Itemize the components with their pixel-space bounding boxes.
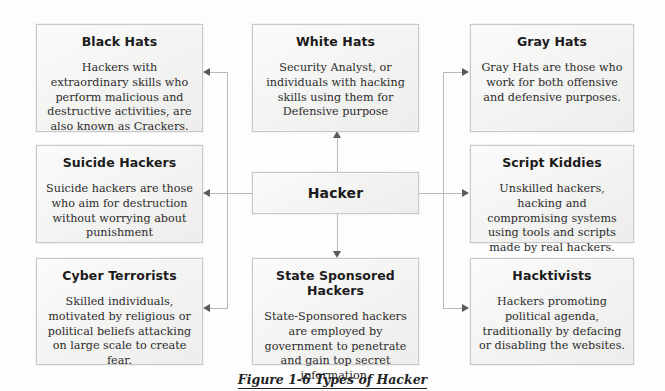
connector-right-trunk [443, 72, 444, 308]
node-suicide-hackers[interactable]: Suicide Hackers Suicide hackers are thos… [36, 145, 203, 243]
node-gray-hats[interactable]: Gray Hats Gray Hats are those who work f… [470, 24, 634, 132]
node-description: Gray Hats are those who work for both of… [478, 61, 626, 105]
figure-caption: Figure 1-6 Types of Hacker [0, 372, 665, 387]
node-title: Suicide Hackers [63, 155, 177, 170]
node-title: Gray Hats [517, 34, 587, 49]
connector-center-to-right-trunk [418, 193, 444, 194]
connector-to-script-kiddies [443, 193, 462, 194]
node-description: Security Analyst, or individuals with ha… [260, 61, 411, 120]
node-white-hats[interactable]: White Hats Security Analyst, or individu… [252, 24, 419, 132]
connector-left-trunk [227, 72, 228, 308]
node-title: Hacker [308, 185, 363, 202]
figure-diagram: Black Hats Hackers with extraordinary sk… [0, 0, 665, 391]
node-description: Hackers promoting political agenda, trad… [478, 295, 626, 354]
connector-center-to-left-trunk [227, 193, 253, 194]
connector-to-hacktivists [443, 308, 462, 309]
node-state-sponsored-hackers[interactable]: State Sponsored Hackers State-Sponsored … [252, 258, 419, 365]
node-title: Hacktivists [512, 268, 591, 283]
node-black-hats[interactable]: Black Hats Hackers with extraordinary sk… [36, 24, 203, 132]
arrowhead-white-hats [333, 131, 341, 138]
node-cyber-terrorists[interactable]: Cyber Terrorists Skilled individuals, mo… [36, 258, 203, 365]
node-description: Unskilled hackers, hacking and compromis… [478, 182, 626, 256]
node-hacker-root[interactable]: Hacker [252, 172, 419, 214]
arrowhead-black-hats [203, 68, 210, 76]
node-title: White Hats [296, 34, 375, 49]
arrowhead-gray-hats [462, 68, 469, 76]
connector-to-white-hats [337, 138, 338, 172]
node-title: State Sponsored Hackers [260, 268, 411, 298]
arrowhead-hacktivists [462, 304, 469, 312]
arrowhead-state-sponsored [333, 251, 341, 258]
arrowhead-suicide-hackers [203, 189, 210, 197]
node-hacktivists[interactable]: Hacktivists Hackers promoting political … [470, 258, 634, 365]
node-script-kiddies[interactable]: Script Kiddies Unskilled hackers, hackin… [470, 145, 634, 243]
node-title: Cyber Terrorists [62, 268, 176, 283]
connector-to-cyber-terrorists [209, 308, 228, 309]
connector-to-suicide-hackers [209, 193, 228, 194]
node-title: Black Hats [82, 34, 158, 49]
connector-to-gray-hats [443, 72, 462, 73]
arrowhead-script-kiddies [462, 189, 469, 197]
node-description: Suicide hackers are those who aim for de… [44, 182, 195, 241]
figure-caption-text: Figure 1-6 Types of Hacker [238, 372, 427, 389]
connector-to-black-hats [209, 72, 228, 73]
node-description: Skilled individuals, motivated by religi… [44, 295, 195, 369]
arrowhead-cyber-terrorists [203, 304, 210, 312]
node-title: Script Kiddies [502, 155, 602, 170]
node-description: Hackers with extraordinary skills who pe… [44, 61, 195, 135]
connector-to-state-sponsored [337, 214, 338, 252]
